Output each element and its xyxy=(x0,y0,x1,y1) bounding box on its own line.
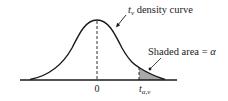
density-curve xyxy=(30,20,165,80)
area-pointer-line xyxy=(149,58,161,70)
curve-pointer-arrow xyxy=(116,15,126,28)
curve-label: tν density curve xyxy=(128,4,193,17)
t-distribution-diagram: tν density curve Shaded area = α 0 tα,ν xyxy=(0,0,228,101)
shaded-area-label: Shaded area = α xyxy=(148,46,216,57)
critical-tick-label: tα,ν xyxy=(139,83,151,96)
center-tick-label: 0 xyxy=(95,83,100,94)
